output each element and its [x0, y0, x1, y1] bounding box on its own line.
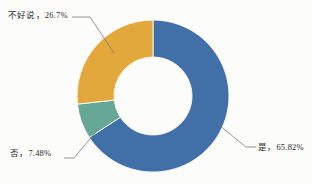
- donut-chart: 不好说，26.7% 否，7.48% 是，65.82%: [0, 0, 312, 184]
- donut-slices-group: [77, 20, 229, 172]
- leader-line-shi: [219, 125, 256, 147]
- slice-label-buhaoshuo: 不好说，26.7%: [8, 8, 68, 20]
- slice-label-shi: 是，65.82%: [258, 140, 304, 152]
- slice-label-fou: 否，7.48%: [10, 146, 51, 158]
- donut-slice: [77, 20, 153, 104]
